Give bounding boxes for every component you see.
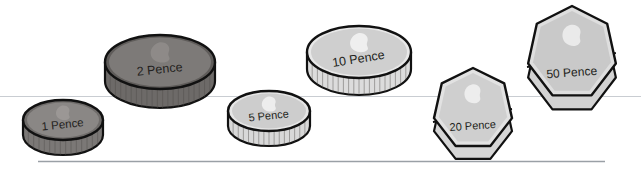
coin-fifty-pence[interactable]: 50 Pence	[527, 6, 616, 109]
coin-twenty-pence[interactable]: 20 Pence	[433, 68, 512, 159]
coin-ten-pence[interactable]: 10 Pence	[307, 26, 411, 95]
coin-one-pence[interactable]: 1 Pence	[23, 100, 103, 155]
coin-two-pence[interactable]: 2 Pence	[105, 35, 215, 108]
coins-canvas: 1 Pence2 Pence5 Pence10 Pence20 Pence50 …	[0, 0, 641, 169]
coin-five-pence[interactable]: 5 Pence	[228, 91, 310, 146]
coin-illustration: 1 Pence2 Pence5 Pence10 Pence20 Pence50 …	[0, 0, 641, 169]
